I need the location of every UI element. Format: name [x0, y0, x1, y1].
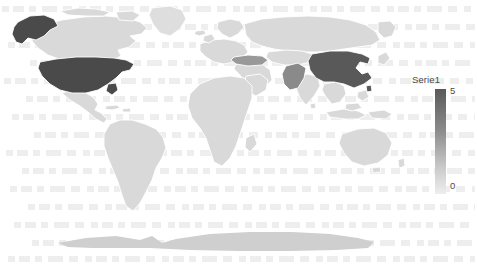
country-canada-arctic	[60, 8, 110, 16]
country-iceland	[194, 30, 206, 36]
island-taiwan	[366, 85, 372, 92]
baseline-countries	[32, 6, 405, 211]
island-madagascar	[245, 134, 257, 152]
island-tasmania	[372, 167, 381, 173]
legend-title: Serie1	[412, 74, 440, 85]
continent-antarctica	[58, 232, 374, 251]
island-new-guinea	[368, 110, 392, 119]
legend-max-label: 5	[450, 85, 455, 96]
continent-africa	[188, 76, 252, 166]
choropleth-figure: Serie1 5 0	[0, 0, 477, 268]
region-indonesia	[326, 109, 366, 119]
legend-gradient-bar	[435, 89, 446, 194]
region-florida	[106, 83, 118, 95]
country-russia	[244, 16, 380, 52]
country-greenland	[149, 6, 186, 36]
world-map-svg	[0, 0, 405, 268]
island-borneo	[345, 103, 362, 111]
country-japan	[378, 52, 390, 65]
island-sri-lanka	[310, 103, 316, 109]
country-turkey	[231, 55, 268, 66]
world-map	[0, 0, 405, 268]
region-southeast-asia	[322, 82, 346, 104]
country-australia	[339, 128, 392, 166]
country-united-states	[38, 57, 134, 93]
island-baffin	[116, 11, 140, 21]
islands-caribbean	[105, 105, 120, 110]
country-new-zealand	[398, 158, 405, 168]
island-hispaniola	[122, 108, 131, 112]
region-far-east-russia	[378, 21, 396, 38]
continent-south-america	[104, 120, 166, 211]
legend: Serie1 5 0	[410, 74, 477, 199]
region-scandinavia	[217, 19, 244, 38]
region-central-asia	[266, 50, 312, 65]
country-mexico	[62, 90, 107, 123]
legend-min-label: 0	[450, 180, 455, 191]
